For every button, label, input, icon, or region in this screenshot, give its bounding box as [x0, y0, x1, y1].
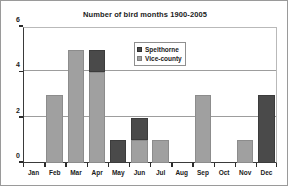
x-tick-label-nov: Nov [235, 169, 256, 176]
x-tick-mark-0 [23, 163, 24, 167]
x-tick-mark-10 [235, 163, 236, 167]
bar-segment-vice-county-mar[interactable] [68, 50, 85, 163]
bar-sep[interactable] [195, 95, 212, 163]
bar-may[interactable] [110, 140, 127, 163]
x-tick-label-feb: Feb [44, 169, 65, 176]
bar-slot-sep [192, 27, 213, 163]
x-tick-label-jul: Jul [150, 169, 171, 176]
y-tick-label-4: 4 [4, 61, 20, 68]
bar-segment-spelthorne-jun[interactable] [131, 118, 148, 141]
bar-slot-jan [23, 27, 44, 163]
x-tick-label-apr: Apr [87, 169, 108, 176]
legend-swatch-spelthorne [137, 47, 142, 52]
bar-dec[interactable] [258, 95, 275, 163]
bar-slot-feb [44, 27, 65, 163]
bar-segment-vice-county-jul[interactable] [152, 140, 169, 163]
bar-feb[interactable] [46, 95, 63, 163]
x-tick-mark-1 [44, 163, 45, 167]
x-axis-labels: JanFebMarAprMayJunJulAugSepOctNovDec [23, 169, 277, 183]
legend-swatch-vice-county [137, 56, 142, 61]
x-axis-tick-marks [23, 163, 277, 168]
x-tick-label-dec: Dec [256, 169, 277, 176]
x-tick-mark-3 [87, 163, 88, 167]
bar-segment-spelthorne-dec[interactable] [258, 95, 275, 163]
chart-figure: Number of bird months 1900-2005 0246 Jan… [0, 0, 288, 186]
bar-slot-mar [65, 27, 86, 163]
bar-slot-nov [235, 27, 256, 163]
x-tick-label-sep: Sep [192, 169, 213, 176]
x-tick-mark-5 [129, 163, 130, 167]
bar-segment-vice-county-nov[interactable] [237, 140, 254, 163]
bar-segment-vice-county-apr[interactable] [89, 72, 106, 163]
bar-slot-oct [214, 27, 235, 163]
legend-label-vice-county: Vice-county [145, 55, 182, 63]
x-tick-label-may: May [108, 169, 129, 176]
bar-mar[interactable] [68, 50, 85, 163]
bar-nov[interactable] [237, 140, 254, 163]
y-tick-label-6: 6 [4, 16, 20, 23]
bar-segment-vice-county-feb[interactable] [46, 95, 63, 163]
bar-segment-spelthorne-apr[interactable] [89, 50, 106, 73]
x-tick-mark-9 [214, 163, 215, 167]
bar-slot-may [108, 27, 129, 163]
x-tick-mark-12 [276, 163, 277, 167]
x-tick-label-oct: Oct [214, 169, 235, 176]
y-tick-label-2: 2 [4, 107, 20, 114]
x-tick-label-jan: Jan [23, 169, 44, 176]
x-tick-mark-2 [65, 163, 66, 167]
bar-jul[interactable] [152, 140, 169, 163]
x-tick-mark-8 [192, 163, 193, 167]
x-tick-label-jun: Jun [129, 169, 150, 176]
bar-jun[interactable] [131, 118, 148, 163]
x-tick-label-aug: Aug [171, 169, 192, 176]
legend-item-spelthorne: Spelthorne [137, 45, 182, 54]
bar-slot-apr [87, 27, 108, 163]
x-tick-mark-6 [150, 163, 151, 167]
bar-apr[interactable] [89, 50, 106, 163]
bar-slot-dec [256, 27, 277, 163]
x-tick-mark-11 [256, 163, 257, 167]
legend-item-vice-county: Vice-county [137, 54, 182, 63]
chart-title: Number of bird months 1900-2005 [1, 10, 288, 19]
y-tick-label-0: 0 [4, 152, 20, 159]
chart-legend: Spelthorne Vice-county [134, 42, 186, 66]
bar-segment-vice-county-jun[interactable] [131, 140, 148, 163]
x-tick-label-mar: Mar [65, 169, 86, 176]
y-axis-labels: 0246 [1, 27, 20, 163]
x-tick-mark-4 [108, 163, 109, 167]
bar-segment-spelthorne-may[interactable] [110, 140, 127, 163]
x-tick-mark-7 [171, 163, 172, 167]
legend-label-spelthorne: Spelthorne [145, 46, 179, 54]
bar-segment-vice-county-sep[interactable] [195, 95, 212, 163]
